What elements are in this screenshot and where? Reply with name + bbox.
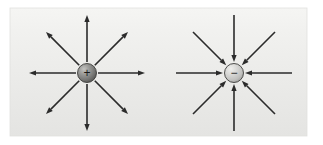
- field-lines-figure: + −: [0, 0, 323, 145]
- figure-root: + −: [0, 0, 323, 145]
- positive-charge-sign: +: [83, 66, 90, 80]
- negative-charge: −: [225, 64, 244, 83]
- negative-charge-sign: −: [230, 66, 237, 80]
- diagram-panel-background: [10, 8, 307, 136]
- positive-charge: +: [78, 64, 97, 83]
